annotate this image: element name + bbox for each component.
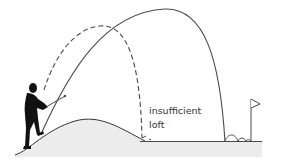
dashed-landing-hook (142, 136, 151, 140)
label-insufficient: insufficient (149, 106, 201, 116)
club-head (64, 95, 66, 97)
golf-loft-diagram: insufficient loft (0, 0, 284, 164)
ball-bounces (225, 135, 251, 141)
label-loft: loft (149, 120, 164, 130)
golf-club (46, 96, 65, 107)
flag-pennant (251, 99, 260, 108)
diagram-canvas (0, 0, 284, 164)
solid-trajectory (42, 9, 225, 142)
